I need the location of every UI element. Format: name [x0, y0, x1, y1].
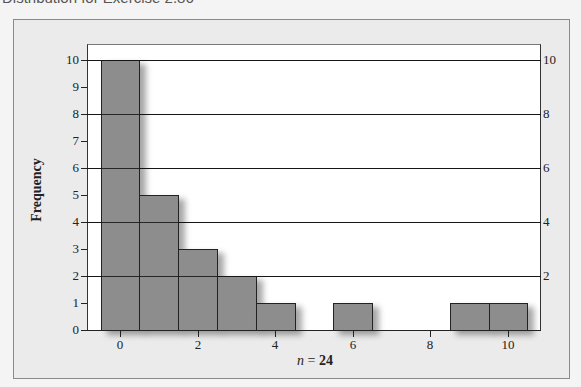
gridline-overlay [81, 168, 541, 169]
y-tick [81, 60, 87, 61]
y-tick [81, 195, 87, 196]
x-tick-label: 6 [338, 337, 368, 353]
gridline-overlay [81, 276, 541, 277]
histogram-bar [178, 249, 218, 331]
x-tick-label: 4 [260, 337, 290, 353]
x-axis-label-value: 24 [319, 353, 333, 368]
y-tick [81, 303, 87, 304]
y-tick-label: 1 [59, 295, 79, 311]
x-tick-label: 10 [493, 337, 523, 353]
y-tick [81, 141, 87, 142]
histogram-bar [256, 303, 296, 331]
x-tick-label: 8 [415, 337, 445, 353]
x-tick-label: 0 [105, 337, 135, 353]
x-axis-label-var: n [297, 353, 304, 368]
y-tick-label: 7 [59, 133, 79, 149]
histogram-bar [450, 303, 490, 331]
right-y-tick-label: 10 [543, 52, 556, 68]
histogram-bar [217, 276, 257, 331]
y-tick-label: 10 [59, 52, 79, 68]
x-axis-label-eq: = [304, 353, 319, 368]
y-tick-label: 2 [59, 268, 79, 284]
x-axis-label: n = 24 [297, 353, 333, 369]
y-tick [81, 276, 87, 277]
y-tick [81, 114, 87, 115]
histogram-bar [139, 195, 179, 331]
y-tick [81, 330, 87, 331]
chart-title: Distribution for Exercise 2.86 [2, 0, 194, 6]
y-tick-label: 9 [59, 79, 79, 95]
y-tick [81, 87, 87, 88]
y-axis-label: Frequency [29, 158, 45, 222]
x-tick-label: 2 [183, 337, 213, 353]
right-y-tick-label: 8 [543, 106, 550, 122]
y-tick-label: 6 [59, 160, 79, 176]
gridline-overlay [81, 60, 541, 61]
y-tick [81, 249, 87, 250]
y-tick [81, 168, 87, 169]
histogram-bar [101, 60, 141, 331]
y-tick-label: 0 [59, 322, 79, 338]
right-y-tick-label: 2 [543, 268, 550, 284]
gridline-overlay [81, 114, 541, 115]
y-tick [81, 222, 87, 223]
y-tick-label: 3 [59, 241, 79, 257]
gridline-overlay [81, 222, 541, 223]
x-axis-line [81, 330, 541, 331]
y-tick-label: 5 [59, 187, 79, 203]
right-y-tick-label: 4 [543, 214, 550, 230]
y-tick-label: 8 [59, 106, 79, 122]
y-tick-label: 4 [59, 214, 79, 230]
histogram-bar [333, 303, 373, 331]
histogram-bar [489, 303, 529, 331]
right-y-tick-label: 6 [543, 160, 550, 176]
